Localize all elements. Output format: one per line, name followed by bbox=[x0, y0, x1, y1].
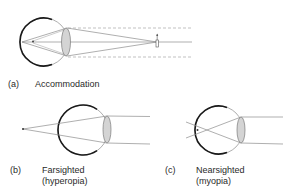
caption-b-title: Farsighted bbox=[42, 165, 85, 175]
panel-c-nearsighted bbox=[186, 106, 283, 154]
ray-outer-top bbox=[67, 28, 157, 42]
parallel-ray-top bbox=[107, 116, 150, 117]
caption-a-tag: (a) bbox=[8, 79, 35, 90]
caption-b-subtitle: (hyperopia) bbox=[10, 176, 88, 187]
ray-bottom bbox=[23, 129, 107, 143]
retina-arc bbox=[195, 106, 227, 154]
lens bbox=[237, 117, 245, 143]
panel-b-farsighted bbox=[22, 105, 150, 155]
caption-c-tag: (c) bbox=[165, 165, 196, 176]
ray-outer-bottom bbox=[67, 42, 157, 56]
panel-a-accommodation bbox=[20, 18, 192, 66]
lens bbox=[103, 116, 111, 143]
focal-point-dot bbox=[197, 129, 199, 131]
caption-c: (c)Nearsighted (myopia) bbox=[165, 165, 245, 187]
parallel-ray-bottom bbox=[107, 143, 150, 144]
caption-c-title: Nearsighted bbox=[196, 165, 245, 175]
ray-top bbox=[23, 116, 107, 129]
caption-a-title: Accommodation bbox=[35, 79, 100, 89]
retina-arc bbox=[58, 105, 97, 155]
ray-inner-bottom bbox=[22, 42, 67, 56]
focal-point-dot bbox=[32, 41, 34, 43]
ray-inner-top bbox=[22, 28, 67, 42]
caption-a: (a)Accommodation bbox=[8, 79, 100, 90]
near-object-icon bbox=[156, 34, 158, 48]
caption-b-tag: (b) bbox=[10, 165, 42, 176]
lens bbox=[62, 28, 71, 56]
caption-c-subtitle: (myopia) bbox=[165, 176, 245, 187]
focal-point-dot bbox=[22, 128, 24, 130]
caption-b: (b)Farsighted (hyperopia) bbox=[10, 165, 88, 187]
parallel-ray-bottom bbox=[241, 143, 283, 144]
